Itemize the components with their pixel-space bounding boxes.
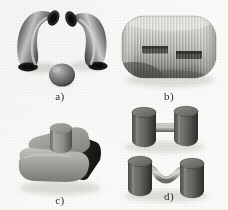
- panel-d-render: [116, 100, 222, 204]
- panel-d: d): [116, 100, 222, 204]
- cylinder-right-top: [174, 106, 198, 146]
- slot-left: [142, 46, 168, 54]
- figure-canvas: a): [0, 0, 228, 210]
- panel-a-render: [8, 6, 112, 98]
- caption-d: d): [116, 190, 222, 202]
- cylinder-boss: [50, 124, 72, 154]
- pipe-elbow-right: [63, 10, 108, 71]
- pedestal-front-face: [19, 148, 89, 182]
- panel-c-render: [8, 108, 112, 204]
- shadow-pedestal: [20, 181, 100, 195]
- slot-right: [176, 51, 202, 59]
- panel-a: a): [8, 6, 112, 98]
- panel-b: b): [116, 6, 222, 98]
- sphere: [49, 64, 75, 87]
- pipe-elbow-left: [17, 8, 61, 71]
- cylinder-left-top: [132, 107, 156, 147]
- caption-a: a): [8, 90, 112, 102]
- caption-c: c): [8, 194, 112, 206]
- panel-b-render: [116, 6, 222, 98]
- panel-c: c): [8, 108, 112, 204]
